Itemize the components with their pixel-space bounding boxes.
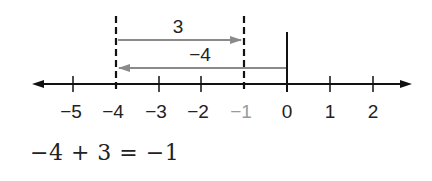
tick-label: −2	[187, 101, 209, 122]
tick-label: −4	[102, 101, 124, 122]
arrow-label-neg4: −4	[189, 44, 211, 65]
tick-label: 0	[282, 101, 293, 122]
tick-label-highlight: −1	[230, 101, 252, 122]
tick-labels: −5 −4 −3 −2 −1 0 1 2	[60, 101, 378, 122]
axis-right-arrowhead	[400, 80, 412, 88]
tick-label: −3	[145, 101, 167, 122]
tick-label: −5	[60, 101, 82, 122]
equation: −4 + 3 = −1	[30, 140, 179, 165]
tick-label: 2	[368, 101, 379, 122]
arrow-label-3: 3	[173, 16, 184, 37]
axis-left-arrowhead	[32, 80, 44, 88]
tick-label: 1	[325, 101, 336, 122]
